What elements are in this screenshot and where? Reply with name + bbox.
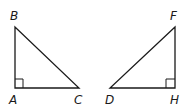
diagram-canvas: B A C F D H — [0, 0, 187, 108]
triangles-figure: B A C F D H — [0, 0, 187, 108]
triangle-abc — [15, 27, 79, 88]
vertex-label-d: D — [105, 93, 114, 107]
right-angle-marker-h — [166, 79, 175, 88]
vertex-label-f: F — [170, 9, 178, 23]
vertex-label-b: B — [10, 9, 18, 23]
vertex-label-h: H — [170, 93, 179, 107]
vertex-label-c: C — [74, 93, 83, 107]
right-angle-marker-a — [15, 79, 23, 88]
vertex-label-a: A — [8, 93, 17, 107]
triangle-dfh — [110, 27, 175, 88]
